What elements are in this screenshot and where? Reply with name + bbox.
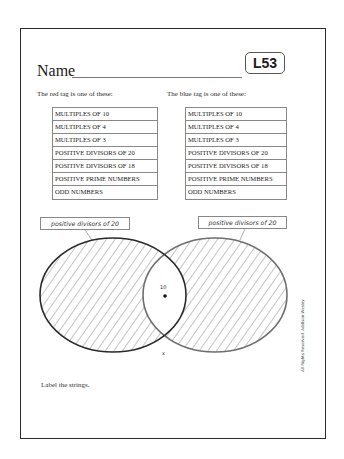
intersection-point-label: 10 — [160, 284, 166, 290]
intersection-point-dot — [163, 294, 167, 298]
right-string-line — [240, 229, 245, 240]
copyright-text: All Rights Reserved. Addison-Wesley — [300, 299, 305, 372]
outside-x-mark: x — [162, 350, 165, 356]
left-string-tag[interactable]: positive divisors of 20 — [40, 217, 130, 230]
right-string-tag[interactable]: positive divisors of 20 — [198, 216, 287, 229]
left-string-line — [85, 230, 92, 240]
instruction-text: Label the strings. — [41, 381, 89, 389]
